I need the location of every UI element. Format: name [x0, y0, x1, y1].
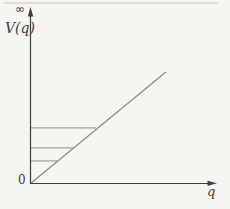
scanned-figure: ∞ V(q) 0 q: [0, 0, 230, 209]
x-axis-label: q: [207, 185, 215, 198]
axes: [28, 7, 217, 186]
y-axis-label: V(q): [5, 21, 35, 35]
origin-label: 0: [18, 174, 26, 186]
y-axis-arrowhead-icon: [28, 7, 33, 17]
y-axis-infinity-label: ∞: [15, 3, 25, 15]
